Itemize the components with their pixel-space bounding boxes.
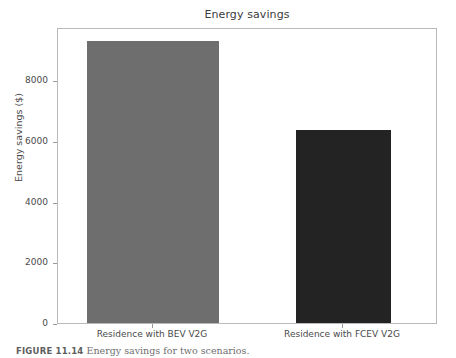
y-tick-label: 0 bbox=[42, 318, 48, 328]
x-tick-mark bbox=[152, 324, 153, 328]
energy-savings-bar-chart: Energy savings Energy savings ($) 020004… bbox=[0, 0, 456, 340]
figure-caption-text: Energy savings for two scenarios. bbox=[86, 345, 249, 356]
figure-caption-label: FIGURE 11.14 bbox=[16, 346, 83, 356]
x-tick-label: Residence with BEV V2G bbox=[97, 329, 208, 339]
y-tick-label: 6000 bbox=[25, 136, 48, 146]
y-axis-ticks: 02000400060008000 bbox=[0, 28, 57, 324]
figure-caption: FIGURE 11.14 Energy savings for two scen… bbox=[16, 345, 446, 358]
y-tick-label: 4000 bbox=[25, 197, 48, 207]
x-tick-mark bbox=[342, 324, 343, 328]
bar-fcev-v2g[interactable] bbox=[296, 130, 391, 323]
x-tick-label: Residence with FCEV V2G bbox=[284, 329, 400, 339]
figure-page: Energy savings Energy savings ($) 020004… bbox=[0, 0, 456, 358]
bar-bev-v2g[interactable] bbox=[87, 41, 219, 323]
plot-area bbox=[57, 28, 437, 324]
x-axis-ticks: Residence with BEV V2GResidence with FCE… bbox=[57, 324, 437, 344]
y-tick-label: 2000 bbox=[25, 257, 48, 267]
chart-title: Energy savings bbox=[57, 8, 437, 21]
y-tick-label: 8000 bbox=[25, 75, 48, 85]
